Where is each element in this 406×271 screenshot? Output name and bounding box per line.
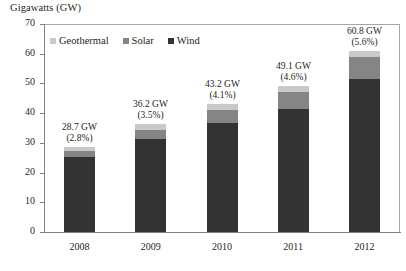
bar-value-label: 60.8 GW(5.6%): [347, 26, 382, 48]
y-axis-tick-mark: [40, 232, 44, 233]
y-axis-tick-mark: [40, 173, 44, 174]
bar-segment-solar: [207, 110, 238, 123]
y-axis-title: Gigawatts (GW): [10, 2, 81, 13]
bar-segment-solar: [349, 57, 380, 78]
y-axis-tick-mark: [40, 54, 44, 55]
bar-segment-solar: [135, 130, 166, 140]
x-axis-line: [44, 232, 401, 233]
bar-total-text: 36.2 GW: [133, 99, 168, 109]
bar-value-label: 43.2 GW(4.1%): [205, 79, 240, 101]
bar-segment-wind: [349, 79, 380, 232]
bar-percent-text: (4.1%): [205, 90, 240, 101]
legend-swatch-icon: [168, 38, 174, 44]
y-axis-tick-mark: [40, 83, 44, 84]
legend-label: Geothermal: [59, 35, 109, 46]
y-axis-tick-label: 50: [25, 76, 35, 87]
bar-column: 36.2 GW(3.5%): [135, 124, 166, 232]
bar-value-label: 28.7 GW(2.8%): [62, 122, 97, 144]
bar-column: 49.1 GW(4.6%): [278, 86, 309, 232]
bar-total-text: 49.1 GW: [276, 61, 311, 71]
y-axis-tick-label: 20: [25, 166, 35, 177]
bar-value-label: 36.2 GW(3.5%): [133, 99, 168, 121]
bar-column: 43.2 GW(4.1%): [207, 104, 238, 232]
bar-percent-text: (4.6%): [276, 72, 311, 83]
y-axis-tick-label: 30: [25, 136, 35, 147]
y-axis-tick-label: 70: [25, 17, 35, 28]
legend-item-wind: Wind: [168, 35, 200, 46]
bar-segment-wind: [278, 109, 309, 232]
x-axis-label: 2010: [197, 241, 247, 252]
bar-segment-wind: [207, 123, 238, 232]
legend-label: Wind: [177, 35, 200, 46]
bar-segment-wind: [135, 139, 166, 232]
legend-item-solar: Solar: [123, 35, 154, 46]
bar-percent-text: (3.5%): [133, 110, 168, 121]
x-axis-label: 2012: [339, 241, 389, 252]
y-axis-tick-label: 0: [30, 225, 35, 236]
legend-swatch-icon: [123, 38, 129, 44]
y-axis-line: [44, 24, 45, 233]
chart-legend: GeothermalSolarWind: [50, 35, 200, 46]
y-axis-tick-mark: [40, 24, 44, 25]
bar-percent-text: (5.6%): [347, 37, 382, 48]
bar-segment-wind: [64, 157, 95, 232]
bar-total-text: 43.2 GW: [205, 79, 240, 89]
y-axis-tick-mark: [40, 202, 44, 203]
bar-segment-solar: [278, 92, 309, 109]
bar-column: 60.8 GW(5.6%): [349, 51, 380, 232]
bar-column: 28.7 GW(2.8%): [64, 147, 95, 232]
stacked-bar-chart: Gigawatts (GW) 706050403020100 Geotherma…: [0, 0, 406, 271]
y-axis-tick-mark: [40, 113, 44, 114]
bar-total-text: 28.7 GW: [62, 122, 97, 132]
bar-value-label: 49.1 GW(4.6%): [276, 61, 311, 83]
y-axis-tick-label: 40: [25, 106, 35, 117]
x-axis-label: 2009: [126, 241, 176, 252]
y-axis-tick-label: 10: [25, 195, 35, 206]
y-axis-tick-mark: [40, 143, 44, 144]
bar-total-text: 60.8 GW: [347, 26, 382, 36]
legend-label: Solar: [132, 35, 154, 46]
bar-percent-text: (2.8%): [62, 133, 97, 144]
x-axis-label: 2008: [55, 241, 105, 252]
x-axis-label: 2011: [268, 241, 318, 252]
y-axis-tick-label: 60: [25, 47, 35, 58]
legend-swatch-icon: [50, 38, 56, 44]
legend-item-geothermal: Geothermal: [50, 35, 109, 46]
